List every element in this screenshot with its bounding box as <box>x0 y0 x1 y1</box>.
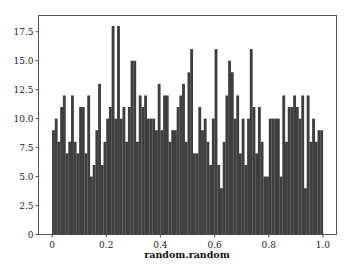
histogram-bar <box>296 107 299 234</box>
histogram-bar <box>290 107 293 234</box>
histogram-bar <box>196 153 199 234</box>
histogram-bar <box>271 119 274 235</box>
histogram-bar <box>185 142 188 235</box>
histogram-bar <box>87 95 90 234</box>
histogram-bar <box>220 188 223 234</box>
histogram-chart: 02.55.07.510.012.515.017.5 00.20.40.60.8… <box>0 0 348 270</box>
histogram-bar <box>158 84 161 235</box>
histogram-bar <box>55 119 58 235</box>
histogram-bar <box>141 107 144 234</box>
histogram-bar <box>95 130 98 234</box>
histogram-bar <box>122 107 125 234</box>
histogram-bar <box>266 177 269 235</box>
histogram-bar <box>201 130 204 234</box>
histogram-bar <box>293 95 296 234</box>
histogram-bar <box>128 107 131 234</box>
histogram-bar <box>206 142 209 235</box>
histogram-bar <box>82 107 85 234</box>
histogram-bar <box>215 49 218 234</box>
histogram-bar <box>179 95 182 234</box>
histogram-bar <box>114 119 117 235</box>
histogram-bar <box>209 165 212 235</box>
histogram-bar <box>315 142 318 235</box>
histogram-bar <box>163 95 166 234</box>
histogram-bar <box>285 142 288 235</box>
histogram-bar <box>228 61 231 235</box>
y-axis: 02.55.07.510.012.515.017.5 <box>13 27 38 240</box>
histogram-bar <box>304 188 307 234</box>
histogram-bar <box>277 119 280 235</box>
histogram-bar <box>250 49 253 234</box>
histogram-bar <box>236 95 239 234</box>
histogram-bar <box>282 95 285 234</box>
histogram-bar <box>217 165 220 235</box>
x-tick-label: 0 <box>49 240 55 250</box>
histogram-bar <box>299 119 302 235</box>
histogram-bar <box>239 153 242 234</box>
histogram-bar <box>90 177 93 235</box>
histogram-bar <box>261 142 264 235</box>
histogram-bar <box>120 119 123 235</box>
histogram-bar <box>198 107 201 234</box>
histogram-bar <box>312 119 315 235</box>
histogram-bar <box>112 26 115 235</box>
histogram-bar <box>174 130 177 234</box>
histogram-bar <box>76 153 79 234</box>
histogram-bar <box>234 119 237 235</box>
histogram-bar <box>169 142 172 235</box>
histogram-bar <box>166 95 169 234</box>
histogram-bar <box>117 26 120 235</box>
histogram-bar <box>247 119 250 235</box>
histogram-bar <box>71 95 74 234</box>
histogram-bar <box>212 119 215 235</box>
y-tick-label: 0 <box>28 230 34 240</box>
histogram-bar <box>52 130 55 234</box>
histogram-bar <box>60 107 63 234</box>
y-tick-label: 7.5 <box>19 143 34 153</box>
histogram-bar <box>280 177 283 235</box>
x-tick-label: 0.8 <box>262 240 277 250</box>
x-axis-label: random.random <box>144 249 230 260</box>
histogram-bar <box>152 119 155 235</box>
x-tick-label: 0.2 <box>99 240 113 250</box>
histogram-bar <box>263 177 266 235</box>
histogram-bar <box>320 130 323 234</box>
histogram-bar <box>171 130 174 234</box>
histogram-bar <box>231 72 234 234</box>
histogram-bar <box>104 142 107 235</box>
histogram-bar <box>57 142 60 235</box>
histogram-bar <box>133 61 136 235</box>
histogram-bar <box>63 95 66 234</box>
histogram-bar <box>136 142 139 235</box>
y-tick-label: 10.0 <box>13 114 33 124</box>
x-axis: 00.20.40.60.81.0 <box>49 235 330 250</box>
histogram-bar <box>274 119 277 235</box>
x-tick-label: 1.0 <box>316 240 331 250</box>
x-tick-label: 0.4 <box>153 240 168 250</box>
histogram-bar <box>225 95 228 234</box>
y-tick-label: 15.0 <box>13 56 33 66</box>
y-tick-label: 2.5 <box>19 201 34 211</box>
histogram-bar <box>98 84 101 235</box>
y-tick-label: 12.5 <box>13 85 33 95</box>
histogram-bar <box>101 165 104 235</box>
x-tick-label: 0.6 <box>207 240 222 250</box>
histogram-bar <box>125 142 128 235</box>
histogram-bar <box>74 142 77 235</box>
histogram-bar <box>204 119 207 235</box>
histogram-bar <box>106 119 109 235</box>
histogram-bar <box>301 95 304 234</box>
histogram-bar <box>109 107 112 234</box>
histogram-bar <box>255 153 258 234</box>
histogram-bar <box>79 107 82 234</box>
histogram-bar <box>307 95 310 234</box>
histogram-bar <box>160 130 163 234</box>
histogram-bar <box>193 153 196 234</box>
histogram-bar <box>309 142 312 235</box>
y-tick-label: 5.0 <box>19 172 34 182</box>
histogram-bar <box>93 165 96 235</box>
histogram-bar <box>188 72 191 234</box>
histogram-bar <box>139 95 142 234</box>
histogram-bar <box>244 165 247 235</box>
histogram-bar <box>147 119 150 235</box>
